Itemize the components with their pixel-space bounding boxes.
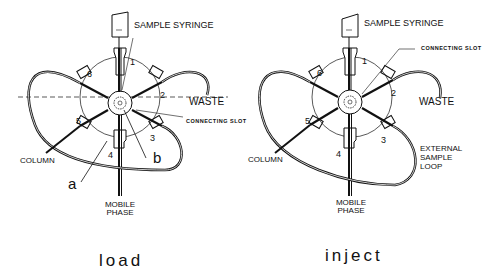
load-sample-syringe-label: SAMPLE SYRINGE bbox=[134, 21, 214, 30]
load-port-2: 2 bbox=[160, 91, 165, 100]
inject-port-5: 5 bbox=[305, 117, 310, 126]
inject-mobile-phase-label: MOBILE PHASE bbox=[333, 199, 369, 215]
load-caption: load bbox=[99, 252, 143, 269]
inject-port-2: 2 bbox=[391, 89, 396, 98]
inject-port-1: 1 bbox=[362, 57, 367, 66]
inject-port-3: 3 bbox=[381, 136, 386, 145]
load-port-1: 1 bbox=[130, 58, 135, 67]
inject-valve bbox=[259, 14, 440, 196]
inject-waste-label: WASTE bbox=[419, 97, 454, 107]
load-port-3: 3 bbox=[150, 134, 155, 143]
load-mobile-phase-label: MOBILE PHASE bbox=[102, 201, 138, 217]
load-column-label: COLUMN bbox=[20, 157, 55, 165]
load-port-5: 5 bbox=[76, 117, 81, 126]
inject-connecting-slot-label: CONNECTING SLOT bbox=[421, 46, 482, 52]
load-label-b: b bbox=[153, 150, 161, 165]
inject-column-label: COLUMN bbox=[248, 156, 283, 164]
load-connecting-slot-label: CONNECTING SLOT bbox=[186, 119, 247, 125]
load-label-a: a bbox=[68, 176, 76, 191]
inject-external-sample-loop-label: EXTERNAL SAMPLE LOOP bbox=[420, 144, 462, 171]
inject-sample-syringe-label: SAMPLE SYRINGE bbox=[364, 19, 444, 28]
inject-port-4: 4 bbox=[336, 150, 341, 159]
load-port-6: 6 bbox=[87, 70, 92, 79]
inject-caption: inject bbox=[325, 247, 383, 264]
inject-port-6: 6 bbox=[317, 69, 322, 78]
load-port-4: 4 bbox=[108, 151, 113, 160]
injection-valve-diagram bbox=[0, 0, 499, 278]
load-waste-label: WASTE bbox=[189, 97, 224, 107]
